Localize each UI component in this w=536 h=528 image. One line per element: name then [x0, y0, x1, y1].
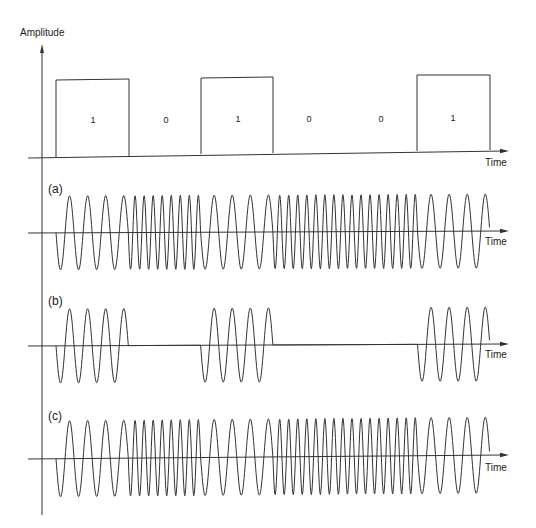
amplitude-axis-label: Amplitude — [20, 28, 64, 38]
panel-c-time-arrow-icon — [500, 453, 509, 457]
bit-label: 1 — [450, 113, 455, 123]
modulation-diagram: Amplitude Time Time Time Time 1 0 1 0 0 … — [0, 0, 536, 528]
bit-label: 0 — [378, 114, 383, 124]
bit-label: 0 — [306, 114, 311, 124]
panel-a-label: (a) — [48, 183, 63, 195]
panel-a-time-label: Time — [485, 237, 507, 247]
baseband-time-axis — [28, 151, 504, 158]
panel-b-waveform — [56, 307, 490, 383]
baseband-time-label: Time — [485, 158, 507, 168]
panel-c-waveform — [56, 417, 490, 496]
panel-b-time-arrow-icon — [500, 342, 509, 346]
bit-label: 0 — [163, 115, 168, 125]
panel-a-time-axis — [28, 231, 504, 233]
panel-a-time-arrow-icon — [500, 229, 509, 233]
panel-a-waveform — [56, 194, 490, 270]
panel-c-time-axis — [28, 455, 504, 459]
panel-b-time-axis — [28, 344, 504, 346]
panel-b-label: (b) — [48, 295, 63, 307]
amplitude-axis-arrow-icon — [40, 44, 44, 53]
panel-c-label: (c) — [48, 410, 62, 422]
panel-c-time-label: Time — [485, 463, 507, 473]
panel-b-time-label: Time — [485, 350, 507, 360]
bit-label: 1 — [235, 114, 240, 124]
waveform-canvas — [0, 0, 536, 528]
bit-label: 1 — [90, 115, 95, 125]
baseband-time-arrow-icon — [500, 149, 509, 153]
